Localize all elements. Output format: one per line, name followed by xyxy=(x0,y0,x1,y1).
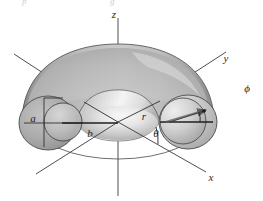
axis-label-x: x xyxy=(208,171,214,183)
clipped-text-right: g xyxy=(110,0,115,6)
axis-label-y: y xyxy=(223,52,229,64)
torus-coordinate-figure: z y x a b r θ ϕ p g xyxy=(0,0,263,201)
axis-label-z: z xyxy=(111,8,117,20)
left-tube-circle xyxy=(44,103,82,141)
clipped-text-left: p xyxy=(21,0,27,6)
dimension-label-b: b xyxy=(87,127,93,139)
figure-canvas: z y x a b r θ ϕ p g xyxy=(0,0,263,201)
phi-surface-point xyxy=(202,109,206,113)
angle-label-phi: ϕ xyxy=(244,82,250,94)
angle-label-theta: θ xyxy=(153,127,159,139)
dimension-label-r: r xyxy=(142,110,147,122)
dimension-label-a: a xyxy=(30,112,36,124)
